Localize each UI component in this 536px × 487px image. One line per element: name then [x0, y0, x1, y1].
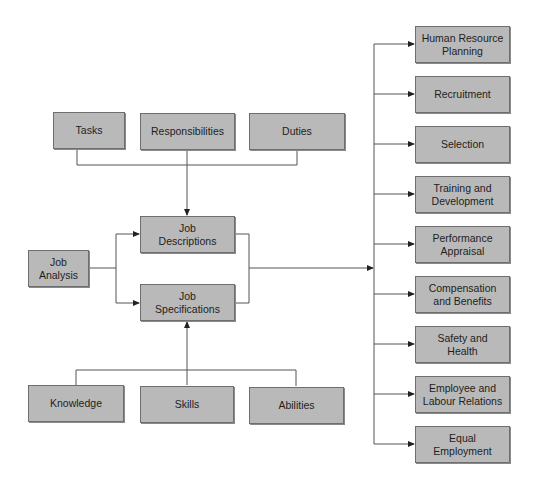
- equal-line2: Employment: [433, 445, 491, 457]
- abilities-label: Abilities: [278, 399, 314, 412]
- performance-appraisal-box: PerformanceAppraisal: [415, 226, 510, 263]
- job-specifications-line1: Job: [179, 290, 196, 302]
- knowledge-label: Knowledge: [50, 397, 102, 410]
- job-analysis-line1: Job: [50, 256, 67, 268]
- duties-box: Duties: [249, 113, 345, 150]
- safety-line2: Health: [447, 345, 477, 357]
- employee-line1: Employee and: [429, 382, 496, 394]
- skills-label: Skills: [175, 398, 200, 411]
- recruitment-label: Recruitment: [434, 88, 491, 101]
- job-specifications-box: Job Specifications: [140, 284, 235, 321]
- equal-line1: Equal: [449, 432, 476, 444]
- training-line2: Development: [432, 195, 494, 207]
- performance-line2: Appraisal: [441, 245, 485, 257]
- compensation-benefits-box: Compensationand Benefits: [415, 276, 510, 313]
- compensation-line2: and Benefits: [433, 295, 491, 307]
- tasks-box: Tasks: [53, 112, 125, 149]
- recruitment-box: Recruitment: [415, 76, 510, 113]
- selection-box: Selection: [415, 126, 510, 163]
- employee-labour-relations-box: Employee andLabour Relations: [415, 376, 510, 413]
- selection-label: Selection: [441, 138, 484, 151]
- job-analysis-line2: Analysis: [39, 269, 78, 281]
- hr-planning-line2: Planning: [442, 45, 483, 57]
- equal-employment-box: EqualEmployment: [415, 426, 510, 463]
- job-descriptions-box: Job Descriptions: [140, 216, 235, 253]
- job-analysis-box: Job Analysis: [28, 250, 89, 287]
- hr-planning-box: Human ResourcePlanning: [415, 26, 510, 63]
- compensation-line1: Compensation: [429, 282, 497, 294]
- tasks-label: Tasks: [76, 124, 103, 137]
- job-descriptions-line1: Job: [179, 222, 196, 234]
- skills-box: Skills: [140, 386, 234, 423]
- employee-line2: Labour Relations: [423, 395, 502, 407]
- safety-line1: Safety and: [437, 332, 487, 344]
- hr-planning-line1: Human Resource: [422, 32, 504, 44]
- safety-health-box: Safety andHealth: [415, 326, 510, 363]
- job-specifications-line2: Specifications: [155, 303, 220, 315]
- training-development-box: Training andDevelopment: [415, 176, 510, 213]
- performance-line1: Performance: [432, 232, 492, 244]
- responsibilities-box: Responsibilities: [140, 113, 235, 150]
- responsibilities-label: Responsibilities: [151, 125, 224, 138]
- job-analysis-diagram: Tasks Responsibilities Duties Job Analys…: [0, 0, 536, 487]
- duties-label: Duties: [282, 125, 312, 138]
- job-descriptions-line2: Descriptions: [159, 235, 217, 247]
- knowledge-box: Knowledge: [28, 385, 124, 422]
- training-line1: Training and: [434, 182, 492, 194]
- abilities-box: Abilities: [249, 387, 344, 424]
